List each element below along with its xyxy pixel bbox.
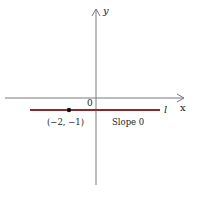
y-axis-label: y — [102, 5, 109, 16]
origin-label: 0 — [87, 98, 93, 108]
line-name-label: l — [164, 104, 167, 115]
slope-label: Slope 0 — [112, 117, 144, 127]
x-axis-label: x — [180, 102, 186, 113]
coordinate-plane: y x 0 l (−2, −1) Slope 0 — [0, 0, 197, 199]
point-marker — [67, 108, 71, 112]
point-label: (−2, −1) — [47, 117, 84, 127]
